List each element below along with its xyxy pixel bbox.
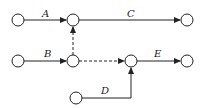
node-2 bbox=[67, 14, 79, 26]
network-diagram: A C B E D bbox=[0, 0, 205, 108]
node-6 bbox=[125, 55, 137, 67]
node-8 bbox=[70, 92, 82, 104]
node-7 bbox=[181, 55, 193, 67]
label-e: E bbox=[153, 48, 162, 59]
node-1 bbox=[12, 14, 24, 26]
node-5 bbox=[67, 55, 79, 67]
node-4 bbox=[12, 55, 24, 67]
label-d: D bbox=[100, 85, 109, 96]
label-a: A bbox=[41, 8, 49, 19]
label-c: C bbox=[127, 8, 135, 19]
label-b: B bbox=[43, 48, 51, 59]
node-3 bbox=[181, 14, 193, 26]
